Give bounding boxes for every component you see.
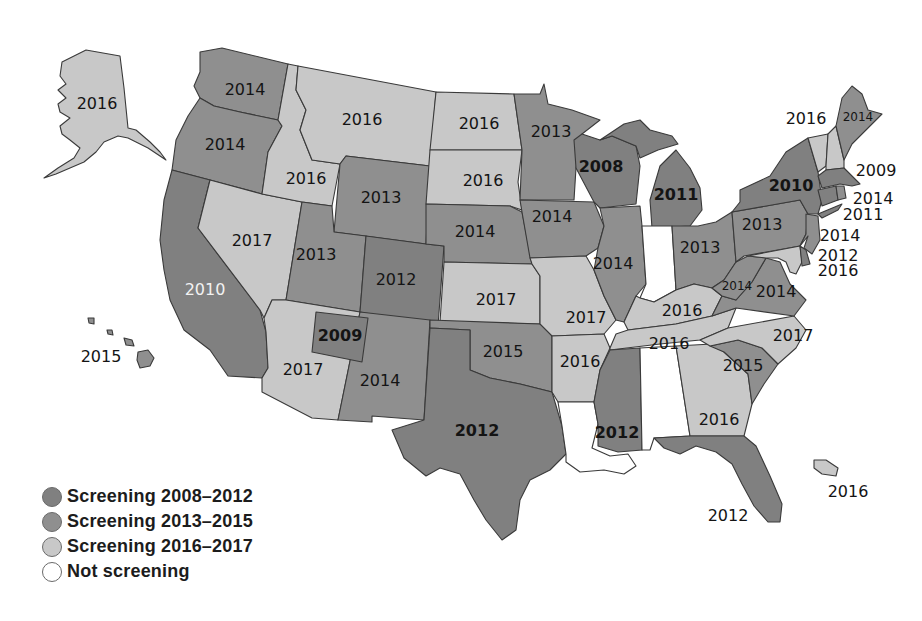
label-WA: 2014 xyxy=(225,80,266,99)
label-WY: 2013 xyxy=(361,188,402,207)
label-NV: 2017 xyxy=(232,231,273,250)
label-MD: 2016 xyxy=(818,261,859,280)
label-AZ: 2017 xyxy=(283,360,324,379)
label-TN: 2016 xyxy=(649,334,690,353)
label-OK: 2015 xyxy=(483,342,524,361)
legend-swatch-medium xyxy=(42,512,62,532)
label-NJ: 2014 xyxy=(820,226,861,245)
legend-swatch-light xyxy=(42,537,62,557)
legend-item-2016-2017: Screening 2016–2017 xyxy=(42,534,253,559)
label-GA: 2016 xyxy=(699,410,740,429)
label-AK: 2016 xyxy=(77,94,118,113)
label-KS: 2017 xyxy=(476,290,517,309)
label-VA: 2014 xyxy=(756,282,797,301)
label-CO: 2012 xyxy=(376,270,417,289)
label-NE: 2014 xyxy=(455,222,496,241)
legend-item-2013-2015: Screening 2013–2015 xyxy=(42,509,253,534)
label-OR: 2014 xyxy=(205,135,246,154)
label-MS: 2012 xyxy=(595,423,640,442)
label-ND: 2016 xyxy=(459,114,500,133)
label-WI: 2008 xyxy=(579,157,624,176)
legend-label: Screening 2008–2012 xyxy=(67,486,253,507)
label-SD: 2016 xyxy=(463,171,504,190)
label-CT: 2011 xyxy=(843,205,884,224)
label-KY: 2016 xyxy=(662,301,703,320)
label-OH: 2013 xyxy=(680,238,721,257)
state-MA[interactable] xyxy=(818,168,860,188)
label-AR: 2016 xyxy=(560,352,601,371)
legend-swatch-dark xyxy=(42,487,62,507)
label-MT: 2016 xyxy=(342,110,383,129)
label-VT: 2016 xyxy=(786,109,827,128)
legend-swatch-empty xyxy=(42,562,62,582)
label-ID: 2016 xyxy=(286,169,327,188)
state-RI[interactable] xyxy=(836,186,846,200)
label-PA: 2013 xyxy=(742,215,783,234)
label-CA: 2010 xyxy=(185,280,226,299)
label-TX: 2012 xyxy=(455,421,500,440)
label-UT: 2013 xyxy=(296,245,337,264)
label-FL: 2012 xyxy=(708,506,749,525)
label-IA: 2014 xyxy=(532,207,573,226)
state-AK[interactable] xyxy=(44,50,166,178)
label-MI: 2011 xyxy=(654,185,699,204)
label-MO: 2017 xyxy=(566,308,607,327)
label-NM: 2014 xyxy=(360,371,401,390)
state-CT[interactable] xyxy=(818,186,838,206)
label-ME: 2014 xyxy=(843,110,874,124)
label-NC: 2017 xyxy=(773,326,814,345)
label-NAVAJO: 2009 xyxy=(318,326,363,345)
label-IL: 2014 xyxy=(593,254,634,273)
map-legend: Screening 2008–2012 Screening 2013–2015 … xyxy=(42,484,253,584)
legend-item-2008-2012: Screening 2008–2012 xyxy=(42,484,253,509)
label-HI: 2015 xyxy=(81,347,122,366)
legend-item-not-screening: Not screening xyxy=(42,559,253,584)
state-IN[interactable] xyxy=(640,226,676,302)
label-PR: 2016 xyxy=(828,482,869,501)
state-PR[interactable] xyxy=(814,460,838,476)
legend-label: Screening 2013–2015 xyxy=(67,511,253,532)
label-NY: 2010 xyxy=(769,176,814,195)
label-MA: 2009 xyxy=(856,161,897,180)
label-MN: 2013 xyxy=(531,122,572,141)
legend-label: Not screening xyxy=(67,561,190,582)
legend-label: Screening 2016–2017 xyxy=(67,536,253,557)
label-WV: 2014 xyxy=(722,279,753,293)
label-SC: 2015 xyxy=(723,356,764,375)
